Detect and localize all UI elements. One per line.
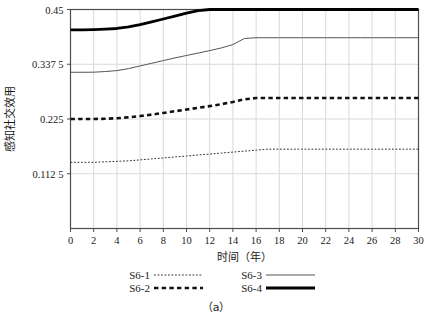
x-tick-label: 30 — [413, 235, 424, 246]
legend-label-s6-1: S6-1 — [129, 269, 150, 281]
x-tick-label: 24 — [344, 235, 355, 246]
gridlines — [71, 10, 419, 229]
x-tick-label: 14 — [228, 235, 239, 246]
legend-label-s6-4: S6-4 — [241, 282, 262, 294]
x-tick-label: 12 — [204, 235, 215, 246]
x-tick-label: 8 — [161, 235, 166, 246]
x-tick-label: 18 — [274, 235, 285, 246]
x-tick-label: 26 — [367, 235, 378, 246]
figure-container: 0246810121416182022242628300.112 50.2250… — [0, 0, 432, 322]
series-line-s6-4 — [71, 10, 419, 30]
figure-caption: （a） — [202, 301, 231, 314]
x-tick-label: 0 — [68, 235, 73, 246]
x-tick-label: 16 — [251, 235, 262, 246]
y-tick-label: 0.112 5 — [32, 169, 63, 180]
y-tick-label: 0.45 — [45, 5, 63, 16]
y-axis-ticks: 0.112 50.2250.337 50.45 — [32, 5, 71, 180]
x-axis-ticks: 024681012141618202224262830 — [68, 229, 424, 246]
x-tick-label: 22 — [320, 235, 331, 246]
series-line-s6-1 — [71, 149, 419, 162]
series-group — [71, 10, 419, 163]
legend-label-s6-2: S6-2 — [129, 282, 150, 294]
x-tick-label: 2 — [91, 235, 96, 246]
x-axis-title: 时间（年） — [217, 250, 272, 264]
legend: S6-1S6-3S6-2S6-4 — [129, 269, 315, 294]
x-tick-label: 28 — [390, 235, 401, 246]
legend-label-s6-3: S6-3 — [241, 269, 262, 281]
x-tick-label: 6 — [137, 235, 142, 246]
x-tick-label: 4 — [114, 235, 120, 246]
y-tick-label: 0.337 5 — [32, 59, 64, 70]
y-tick-label: 0.225 — [40, 114, 64, 125]
x-tick-label: 10 — [181, 235, 192, 246]
social-utility-line-chart: 0246810121416182022242628300.112 50.2250… — [0, 0, 432, 322]
series-line-s6-2 — [71, 98, 419, 119]
y-axis-title: 感知社交效用 — [3, 86, 17, 152]
x-tick-label: 20 — [297, 235, 308, 246]
series-line-s6-3 — [71, 38, 419, 73]
